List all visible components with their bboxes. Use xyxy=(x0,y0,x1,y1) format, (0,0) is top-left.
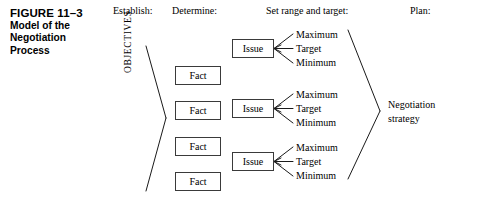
issue-2-line-minimum xyxy=(274,109,293,124)
fact-box[interactable]: Fact xyxy=(175,137,221,156)
issue-2-arrowhead-lower xyxy=(274,109,281,113)
column-header-determine: Determine: xyxy=(172,5,217,17)
issue-1-arrowhead-upper xyxy=(274,45,281,49)
plan-bracket-upper xyxy=(348,30,380,111)
objectives-bracket-upper xyxy=(146,46,166,118)
range-label-minimum: Minimum xyxy=(296,169,338,183)
objectives-label: OBJECTIVES xyxy=(122,0,133,73)
figure-container: FIGURE 11–3 Model of the Negotiation Pro… xyxy=(0,0,480,205)
issue-2-arrowhead-upper xyxy=(274,105,281,109)
range-group: Maximum Target Minimum xyxy=(296,141,338,184)
fact-box[interactable]: Fact xyxy=(175,172,221,191)
range-group: Maximum Target Minimum xyxy=(296,88,338,131)
objectives-bracket-lower xyxy=(146,118,166,191)
issue-2-line-maximum xyxy=(274,94,293,109)
range-group: Maximum Target Minimum xyxy=(296,28,338,71)
issue-3-line-maximum xyxy=(274,147,293,162)
issue-1-line-minimum xyxy=(274,49,293,64)
issue-1-arrowhead-lower xyxy=(274,49,281,53)
figure-caption: FIGURE 11–3 Model of the Negotiation Pro… xyxy=(10,7,110,57)
outcome-line-2: strategy xyxy=(388,112,476,126)
issue-box[interactable]: Issue xyxy=(232,39,274,58)
figure-title-line-1: Model of the xyxy=(10,20,110,33)
column-header-plan: Plan: xyxy=(410,5,431,17)
range-label-minimum: Minimum xyxy=(296,116,338,130)
issue-1-line-maximum xyxy=(274,34,293,49)
range-label-target: Target xyxy=(296,42,338,56)
issue-box[interactable]: Issue xyxy=(232,152,274,171)
range-label-minimum: Minimum xyxy=(296,56,338,70)
issue-3-arrowhead-upper xyxy=(274,158,281,162)
issue-3-arrowhead-lower xyxy=(274,162,281,166)
figure-title-line-3: Process xyxy=(10,45,110,58)
negotiation-strategy-label: Negotiation strategy xyxy=(388,98,476,126)
range-label-target: Target xyxy=(296,155,338,169)
plan-bracket-lower xyxy=(348,111,380,179)
issue-3-line-minimum xyxy=(274,162,293,177)
figure-number: FIGURE 11–3 xyxy=(10,7,110,20)
range-label-maximum: Maximum xyxy=(296,141,338,155)
column-header-set-range-and-target: Set range and target: xyxy=(266,5,348,17)
issue-box[interactable]: Issue xyxy=(232,99,274,118)
fact-box[interactable]: Fact xyxy=(175,66,221,85)
fact-box[interactable]: Fact xyxy=(175,101,221,120)
range-label-target: Target xyxy=(296,102,338,116)
outcome-line-1: Negotiation xyxy=(388,98,476,112)
figure-title-line-2: Negotiation xyxy=(10,32,110,45)
range-label-maximum: Maximum xyxy=(296,28,338,42)
range-label-maximum: Maximum xyxy=(296,88,338,102)
